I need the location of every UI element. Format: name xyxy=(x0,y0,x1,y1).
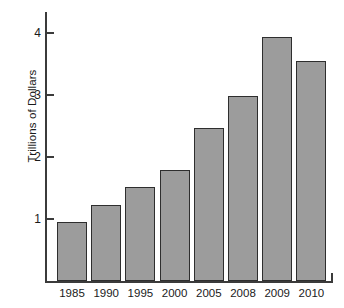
x-axis-label-2000: 2000 xyxy=(157,287,193,299)
bar-1985 xyxy=(57,222,87,281)
y-axis-tick-label: 2 xyxy=(21,151,41,163)
x-axis-label-2009: 2009 xyxy=(259,287,295,299)
y-axis-tick xyxy=(46,218,54,220)
x-axis-end-tick xyxy=(331,273,333,282)
bar-1990 xyxy=(91,205,121,281)
y-axis-line xyxy=(45,12,47,282)
y-axis-tick xyxy=(46,94,54,96)
x-axis-label-2010: 2010 xyxy=(293,287,329,299)
y-axis-tick-label: 3 xyxy=(21,89,41,101)
plot-area: 1234 19851990199520002005200820092010 xyxy=(45,12,333,282)
bar-2010 xyxy=(296,61,326,281)
y-axis-tick xyxy=(46,156,54,158)
y-axis-tick xyxy=(46,32,54,34)
y-axis-tick-label: 1 xyxy=(21,213,41,225)
bar-2005 xyxy=(194,128,224,281)
x-axis-label-1990: 1990 xyxy=(88,287,124,299)
bar-2009 xyxy=(262,37,292,281)
x-axis-label-2005: 2005 xyxy=(191,287,227,299)
bar-2008 xyxy=(228,96,258,281)
y-axis-title: Trillions of Dollars xyxy=(26,41,38,191)
x-axis-line xyxy=(45,281,333,283)
x-axis-label-2008: 2008 xyxy=(225,287,261,299)
x-axis-label-1985: 1985 xyxy=(54,287,90,299)
bar-1995 xyxy=(125,187,155,281)
bar-2000 xyxy=(160,170,190,281)
y-axis-tick-label: 4 xyxy=(21,27,41,39)
bar-chart: Trillions of Dollars 1234 19851990199520… xyxy=(0,0,344,308)
x-axis-label-1995: 1995 xyxy=(122,287,158,299)
